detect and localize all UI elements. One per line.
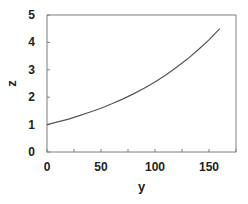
x-axis-label: y	[138, 179, 146, 194]
y-tick-label: 1	[28, 118, 35, 132]
x-tick-label: 50	[94, 160, 108, 174]
x-tick-label: 100	[145, 160, 165, 174]
x-tick-label: 0	[44, 160, 51, 174]
plot-frame	[47, 15, 236, 152]
y-tick-label: 3	[28, 63, 35, 77]
data-line	[47, 29, 220, 125]
y-tick-label: 4	[28, 35, 35, 49]
x-tick-label: 150	[199, 160, 219, 174]
line-chart: 012345 050100150 y z	[0, 0, 248, 204]
y-tick-label: 0	[28, 145, 35, 159]
y-tick-label: 5	[28, 8, 35, 22]
y-axis-label: z	[4, 80, 19, 87]
y-tick-label: 2	[28, 90, 35, 104]
x-axis-ticks: 050100150	[44, 149, 236, 174]
